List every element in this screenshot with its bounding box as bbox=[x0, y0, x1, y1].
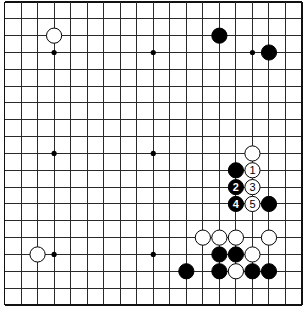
black-stone-circle bbox=[228, 247, 243, 262]
white-stone-circle bbox=[212, 230, 227, 245]
white-stone-circle bbox=[245, 146, 260, 161]
move-number-label: 3 bbox=[249, 181, 255, 193]
star-point bbox=[250, 50, 255, 55]
white-stone-circle bbox=[228, 264, 243, 279]
black-stone[interactable] bbox=[212, 28, 227, 43]
white-stone-circle bbox=[228, 230, 243, 245]
white-stone[interactable] bbox=[30, 247, 45, 262]
white-stone[interactable] bbox=[195, 230, 210, 245]
black-stone[interactable]: 4 bbox=[228, 196, 243, 211]
black-stone[interactable] bbox=[261, 264, 276, 279]
star-point bbox=[151, 50, 156, 55]
white-stone[interactable] bbox=[46, 28, 61, 43]
star-point bbox=[51, 252, 56, 257]
white-stone[interactable] bbox=[212, 230, 227, 245]
black-stone[interactable] bbox=[212, 264, 227, 279]
white-stone[interactable] bbox=[245, 247, 260, 262]
white-stone-circle bbox=[195, 230, 210, 245]
black-stone[interactable] bbox=[212, 247, 227, 262]
black-stone-circle bbox=[245, 264, 260, 279]
white-stone-circle bbox=[245, 247, 260, 262]
black-stone[interactable] bbox=[179, 264, 194, 279]
white-stone[interactable]: 1 bbox=[245, 163, 260, 178]
white-stone[interactable]: 5 bbox=[245, 196, 260, 211]
black-stone-circle bbox=[212, 264, 227, 279]
star-point bbox=[151, 151, 156, 156]
white-stone[interactable] bbox=[228, 264, 243, 279]
black-stone-circle bbox=[212, 247, 227, 262]
black-stone[interactable] bbox=[261, 196, 276, 211]
move-number-label: 5 bbox=[249, 198, 255, 210]
move-number-label: 2 bbox=[233, 181, 239, 193]
white-stone[interactable]: 3 bbox=[245, 180, 260, 195]
white-stone[interactable] bbox=[261, 230, 276, 245]
white-stone-circle bbox=[30, 247, 45, 262]
black-stone[interactable] bbox=[261, 45, 276, 60]
black-stone[interactable]: 2 bbox=[228, 180, 243, 195]
black-stone-circle bbox=[261, 45, 276, 60]
black-stone-circle bbox=[261, 196, 276, 211]
black-stone-circle bbox=[212, 28, 227, 43]
black-stone[interactable] bbox=[228, 163, 243, 178]
star-point bbox=[51, 151, 56, 156]
black-stone[interactable] bbox=[245, 264, 260, 279]
black-stone-circle bbox=[228, 163, 243, 178]
star-point bbox=[151, 252, 156, 257]
white-stone-circle bbox=[261, 230, 276, 245]
white-stone[interactable] bbox=[245, 146, 260, 161]
move-number-label: 1 bbox=[249, 164, 255, 176]
black-stone-circle bbox=[261, 264, 276, 279]
white-stone-circle bbox=[46, 28, 61, 43]
star-point bbox=[51, 50, 56, 55]
black-stone[interactable] bbox=[228, 247, 243, 262]
black-stone-circle bbox=[179, 264, 194, 279]
go-board[interactable]: 12345 bbox=[0, 0, 304, 311]
white-stone[interactable] bbox=[228, 230, 243, 245]
move-number-label: 4 bbox=[233, 198, 240, 210]
go-board-canvas[interactable]: 12345 bbox=[0, 0, 304, 311]
